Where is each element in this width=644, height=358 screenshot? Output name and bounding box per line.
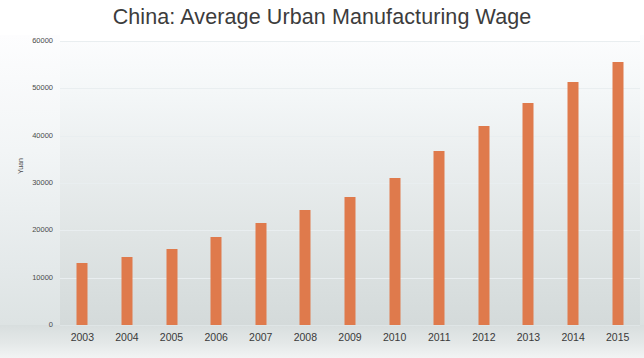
bar-slot (506, 41, 551, 325)
x-axis-tick-label: 2009 (328, 331, 373, 343)
y-axis-tick-labels: 0100002000030000400005000060000 (0, 41, 56, 325)
bar-slot (149, 41, 194, 325)
x-axis-tick-label: 2011 (417, 331, 462, 343)
bar (344, 197, 355, 325)
y-axis-tick-label: 0 (0, 320, 53, 329)
figure-margin-right (640, 35, 644, 325)
bar (211, 237, 222, 325)
x-axis-tick-label: 2015 (595, 331, 640, 343)
x-axis-tick-label: 2010 (372, 331, 417, 343)
chart-title: China: Average Urban Manufacturing Wage (0, 5, 644, 30)
bar (166, 249, 177, 325)
bar (300, 210, 311, 325)
bar-slot (238, 41, 283, 325)
bar (77, 263, 88, 325)
bar-slot (372, 41, 417, 325)
bar-slot (595, 41, 640, 325)
bar-slot (328, 41, 373, 325)
bar-chart-figure: China: Average Urban Manufacturing Wage … (0, 0, 644, 358)
bar-slot (551, 41, 596, 325)
bar-slot (462, 41, 507, 325)
y-axis-tick-label: 30000 (0, 178, 53, 187)
bar-series (60, 41, 640, 325)
bar-slot (105, 41, 150, 325)
y-axis-title: Yuan (17, 158, 24, 174)
x-axis-tick-label: 2013 (506, 331, 551, 343)
x-axis-tick-label: 2014 (551, 331, 596, 343)
bar-slot (417, 41, 462, 325)
x-axis-tick-label: 2005 (149, 331, 194, 343)
y-axis-tick-label: 50000 (0, 83, 53, 92)
bar (434, 151, 445, 325)
y-axis-tick-label: 20000 (0, 225, 53, 234)
x-axis-tick-label: 2012 (462, 331, 507, 343)
gridline (60, 325, 640, 326)
bar (121, 257, 132, 325)
y-axis-tick-label: 10000 (0, 273, 53, 282)
x-axis-tick-label: 2003 (60, 331, 105, 343)
y-axis-tick-label: 60000 (0, 36, 53, 45)
y-axis-tick-label: 40000 (0, 131, 53, 140)
bar (568, 82, 579, 325)
bar (255, 223, 266, 325)
x-axis-tick-labels: 2003200420052006200720082009201020112012… (60, 331, 640, 347)
x-axis-tick-label: 2008 (283, 331, 328, 343)
x-axis-tick-label: 2007 (238, 331, 283, 343)
bar (523, 103, 534, 325)
x-axis-tick-label: 2004 (105, 331, 150, 343)
bar (478, 126, 489, 325)
x-axis-tick-label: 2006 (194, 331, 239, 343)
bar (389, 178, 400, 325)
bar-slot (283, 41, 328, 325)
bar-slot (60, 41, 105, 325)
bar (612, 62, 623, 325)
bar-slot (194, 41, 239, 325)
